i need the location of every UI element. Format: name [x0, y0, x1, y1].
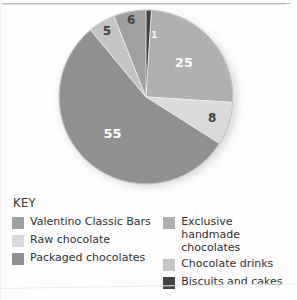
pie-chart-svg: 12585556 — [57, 9, 237, 189]
pie-slice-label: 1 — [151, 30, 157, 40]
legend-item: Valentino Classic Bars — [12, 215, 155, 230]
legend-item: Exclusive handmade chocolates — [163, 215, 287, 254]
legend-swatch — [12, 235, 24, 247]
legend-item-label: Valentino Classic Bars — [30, 215, 151, 228]
pie-slice-label: 5 — [103, 24, 111, 38]
pie-chart: 12585556 — [57, 9, 237, 189]
legend-swatch — [12, 217, 24, 229]
legend-item-label: Packaged chocolates — [30, 251, 145, 264]
legend-item-label: Chocolate drinks — [181, 257, 273, 270]
legend-columns: Valentino Classic BarsRaw chocolatePacka… — [12, 215, 287, 290]
page-top-rule-secondary — [2, 4, 286, 5]
legend-swatch — [163, 277, 175, 289]
legend-swatch — [163, 259, 175, 271]
pie-slice-label: 6 — [127, 13, 135, 27]
legend-item-label: Raw chocolate — [30, 233, 110, 246]
legend-item-label: Biscuits and cakes — [181, 275, 282, 288]
legend-swatch — [12, 253, 24, 265]
legend-column-right: Exclusive handmade chocolatesChocolate d… — [163, 215, 287, 290]
legend-item-label: Exclusive handmade chocolates — [181, 215, 287, 254]
pie-slice-group — [59, 10, 233, 184]
legend-item: Packaged chocolates — [12, 251, 155, 266]
legend-title: KEY — [13, 196, 287, 210]
legend-item: Biscuits and cakes — [163, 275, 287, 290]
legend-item: Raw chocolate — [12, 233, 155, 248]
legend-item: Chocolate drinks — [163, 257, 287, 272]
pie-slice-label: 8 — [208, 111, 216, 125]
pie-slice-label: 25 — [175, 55, 193, 70]
page-left-edge — [0, 0, 1, 300]
legend-column-left: Valentino Classic BarsRaw chocolatePacka… — [12, 215, 155, 290]
legend-swatch — [163, 217, 175, 229]
legend: KEY Valentino Classic BarsRaw chocolateP… — [12, 196, 287, 290]
pie-slice-label: 55 — [104, 126, 122, 141]
